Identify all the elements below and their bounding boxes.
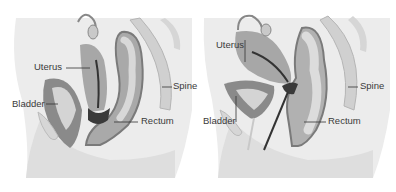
rectum-label: Rectum bbox=[141, 116, 174, 126]
rectum-label: Rectum bbox=[328, 116, 361, 126]
uterus-label: Uterus bbox=[216, 40, 244, 50]
anatomy-panel-right: Uterus Bladder Spine Rectum bbox=[198, 0, 396, 192]
uterus-label: Uterus bbox=[34, 62, 62, 72]
bladder-label: Bladder bbox=[203, 116, 236, 126]
pelvis-cross-section-illustration bbox=[198, 0, 396, 192]
bladder-label: Bladder bbox=[12, 99, 45, 109]
spine-label: Spine bbox=[173, 81, 197, 91]
anatomy-panel-left: Uterus Bladder Spine Rectum bbox=[0, 0, 198, 192]
pelvis-cross-section-illustration bbox=[0, 0, 198, 192]
spine-label: Spine bbox=[360, 81, 384, 91]
